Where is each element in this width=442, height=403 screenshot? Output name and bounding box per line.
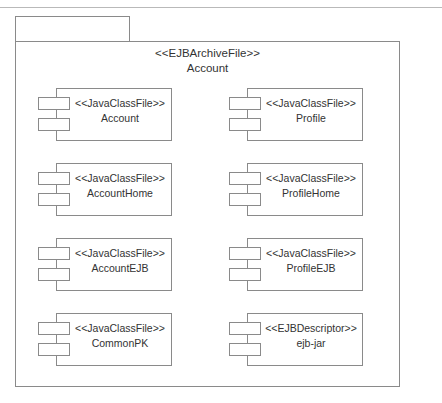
component-stereotype: <<EJBDescriptor>> bbox=[259, 321, 363, 336]
scan-artifact-rule bbox=[0, 7, 442, 8]
component-tab-upper-icon bbox=[229, 172, 261, 185]
component-tab-lower-icon bbox=[229, 268, 261, 281]
component-profilehome[interactable]: <<JavaClassFile>>ProfileHome bbox=[229, 163, 363, 216]
component-accountejb[interactable]: <<JavaClassFile>>AccountEJB bbox=[38, 238, 172, 291]
component-labels: <<JavaClassFile>>ProfileHome bbox=[259, 171, 363, 201]
component-labels: <<JavaClassFile>>Account bbox=[68, 96, 172, 126]
component-account[interactable]: <<JavaClassFile>>Account bbox=[38, 88, 172, 141]
component-labels: <<JavaClassFile>>Profile bbox=[259, 96, 363, 126]
package-stereotype: <<EJBArchiveFile>> bbox=[155, 47, 260, 59]
component-tab-upper-icon bbox=[38, 97, 70, 110]
component-commonpk[interactable]: <<JavaClassFile>>CommonPK bbox=[38, 313, 172, 366]
component-tab-lower-icon bbox=[38, 268, 70, 281]
component-name: ejb-jar bbox=[259, 336, 363, 351]
package-name: Account bbox=[187, 62, 229, 74]
component-labels: <<EJBDescriptor>>ejb-jar bbox=[259, 321, 363, 351]
component-stereotype: <<JavaClassFile>> bbox=[68, 246, 172, 261]
component-tab-lower-icon bbox=[38, 343, 70, 356]
component-accounthome[interactable]: <<JavaClassFile>>AccountHome bbox=[38, 163, 172, 216]
component-labels: <<JavaClassFile>>ProfileEJB bbox=[259, 246, 363, 276]
component-tab-upper-icon bbox=[229, 322, 261, 335]
component-tab-lower-icon bbox=[38, 118, 70, 131]
package-header: <<EJBArchiveFile>> Account bbox=[15, 46, 400, 76]
component-tab-upper-icon bbox=[229, 247, 261, 260]
component-profileejb[interactable]: <<JavaClassFile>>ProfileEJB bbox=[229, 238, 363, 291]
component-name: Account bbox=[68, 111, 172, 126]
component-tab-upper-icon bbox=[229, 97, 261, 110]
component-profile[interactable]: <<JavaClassFile>>Profile bbox=[229, 88, 363, 141]
component-name: ProfileEJB bbox=[259, 261, 363, 276]
component-tab-upper-icon bbox=[38, 247, 70, 260]
component-labels: <<JavaClassFile>>AccountHome bbox=[68, 171, 172, 201]
component-tab-upper-icon bbox=[38, 322, 70, 335]
component-name: ProfileHome bbox=[259, 186, 363, 201]
component-name: CommonPK bbox=[68, 336, 172, 351]
component-tab-lower-icon bbox=[38, 193, 70, 206]
component-stereotype: <<JavaClassFile>> bbox=[259, 171, 363, 186]
component-stereotype: <<JavaClassFile>> bbox=[259, 246, 363, 261]
component-tab-lower-icon bbox=[229, 118, 261, 131]
component-tab-lower-icon bbox=[229, 193, 261, 206]
component-stereotype: <<JavaClassFile>> bbox=[259, 96, 363, 111]
component-tab-lower-icon bbox=[229, 343, 261, 356]
component-tab-upper-icon bbox=[38, 172, 70, 185]
component-stereotype: <<JavaClassFile>> bbox=[68, 171, 172, 186]
component-stereotype: <<JavaClassFile>> bbox=[68, 321, 172, 336]
package-tab bbox=[15, 16, 130, 41]
diagram-canvas: <<EJBArchiveFile>> Account <<JavaClassFi… bbox=[0, 0, 442, 403]
component-name: AccountHome bbox=[68, 186, 172, 201]
component-labels: <<JavaClassFile>>AccountEJB bbox=[68, 246, 172, 276]
component-name: Profile bbox=[259, 111, 363, 126]
component-stereotype: <<JavaClassFile>> bbox=[68, 96, 172, 111]
component-labels: <<JavaClassFile>>CommonPK bbox=[68, 321, 172, 351]
component-name: AccountEJB bbox=[68, 261, 172, 276]
component-ejb-jar[interactable]: <<EJBDescriptor>>ejb-jar bbox=[229, 313, 363, 366]
